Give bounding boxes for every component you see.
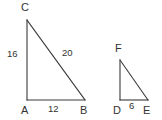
side-length-label-cb: 20 — [62, 48, 73, 58]
vertex-label-f: F — [115, 43, 122, 54]
side-length-label-de: 6 — [129, 101, 134, 111]
geometry-diagram-svg — [0, 0, 162, 120]
triangle-def-shape — [120, 60, 148, 100]
vertex-label-b: B — [80, 105, 88, 116]
side-length-label-ab: 12 — [48, 104, 59, 114]
vertex-label-d: D — [113, 105, 121, 116]
vertex-label-e: E — [143, 105, 151, 116]
triangle-abc-shape — [27, 20, 85, 100]
vertex-label-a: A — [21, 105, 29, 116]
segment-cb — [27, 20, 85, 100]
segment-fe — [120, 60, 148, 100]
side-length-label-ac: 16 — [7, 49, 18, 59]
geometry-figure: C A B 16 20 12 F D E 6 — [0, 0, 162, 120]
vertex-label-c: C — [21, 2, 29, 13]
